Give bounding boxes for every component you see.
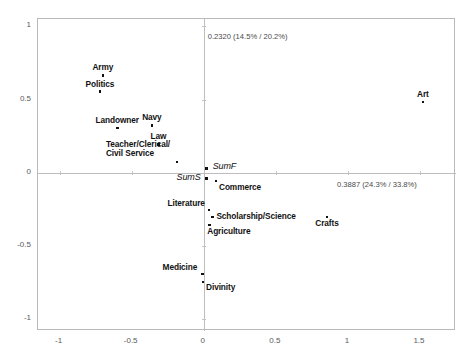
x-tick-label: 1.5 xyxy=(399,336,439,345)
data-point xyxy=(116,127,119,130)
x-tick-label: -0.5 xyxy=(111,336,151,345)
point-label: Scholarship/Science xyxy=(216,212,295,222)
data-point xyxy=(205,167,208,170)
x-tick-label: 0.5 xyxy=(255,336,295,345)
point-label: Landowner xyxy=(96,116,139,126)
x-axis-tick xyxy=(132,171,133,175)
y-tick-label: -0.5 xyxy=(3,240,31,249)
point-label: SumS xyxy=(177,173,201,183)
x-axis-tick xyxy=(60,171,61,175)
point-label: Literature xyxy=(168,199,205,209)
x-tick-label: 1 xyxy=(327,336,367,345)
horizontal-axis-annotation: 0.3887 (24.3% / 33.8%) xyxy=(337,180,417,189)
y-tick-label: 1 xyxy=(3,20,31,29)
x-axis-tick xyxy=(348,171,349,175)
y-axis-tick xyxy=(202,246,206,247)
plot-area: ArmyPoliticsLandownerNavyLawTeacher/Cler… xyxy=(37,18,455,330)
correspondence-analysis-scatter-plot: ArmyPoliticsLandownerNavyLawTeacher/Cler… xyxy=(0,0,472,364)
x-axis-tick xyxy=(420,171,421,175)
point-label: Medicine xyxy=(163,263,198,273)
point-label: Army xyxy=(92,63,113,73)
y-tick-label: 0.5 xyxy=(3,94,31,103)
data-point xyxy=(208,209,211,212)
y-axis-tick xyxy=(202,319,206,320)
x-axis-tick xyxy=(276,171,277,175)
point-label: SumF xyxy=(213,162,237,172)
vertical-axis-line xyxy=(204,19,205,331)
x-tick-label: 0 xyxy=(183,336,223,345)
point-label: Divinity xyxy=(206,283,235,293)
x-tick-label: -1 xyxy=(39,336,79,345)
y-tick-label: 0 xyxy=(3,167,31,176)
data-point xyxy=(205,177,208,180)
data-point xyxy=(202,281,205,284)
y-axis-tick xyxy=(202,100,206,101)
point-label: Agriculture xyxy=(207,227,250,237)
point-label: Politics xyxy=(86,80,115,90)
data-point xyxy=(151,124,154,127)
vertical-axis-annotation: 0.2320 (14.5% / 20.2%) xyxy=(208,32,288,41)
data-point xyxy=(176,161,179,164)
data-point xyxy=(422,101,425,104)
data-point xyxy=(99,90,102,93)
horizontal-axis-line xyxy=(38,173,456,174)
data-point xyxy=(201,273,204,276)
point-label: Crafts xyxy=(315,219,338,229)
point-label: Commerce xyxy=(219,183,261,193)
data-point xyxy=(211,216,214,219)
point-label: Art xyxy=(417,90,429,100)
y-tick-label: -1 xyxy=(3,313,31,322)
data-point xyxy=(215,180,218,183)
point-label: Navy xyxy=(142,113,161,123)
data-point xyxy=(102,74,105,77)
y-axis-tick xyxy=(202,26,206,27)
point-label: Teacher/Clerical/ Civil Service xyxy=(106,140,170,159)
